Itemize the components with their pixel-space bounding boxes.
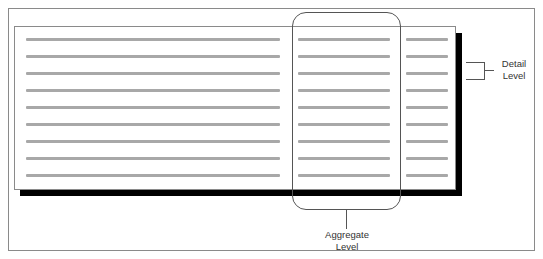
detail-connector bbox=[484, 70, 494, 71]
wide-column-line bbox=[26, 106, 280, 109]
narrow-column-line bbox=[406, 123, 448, 126]
aggregate-connector bbox=[346, 210, 347, 229]
narrow-column-line bbox=[406, 106, 448, 109]
wide-column-line bbox=[26, 55, 280, 58]
narrow-column-line bbox=[406, 157, 448, 160]
wide-column-line bbox=[26, 123, 280, 126]
narrow-column-line bbox=[406, 140, 448, 143]
narrow-column-line bbox=[406, 89, 448, 92]
wide-column-line bbox=[26, 140, 280, 143]
detail-level-label: Detail Level bbox=[494, 58, 534, 82]
wide-column-line bbox=[26, 72, 280, 75]
narrow-column-line bbox=[406, 38, 448, 41]
aggregate-label-line1: Aggregate bbox=[316, 229, 378, 241]
aggregate-level-label: Aggregate Level bbox=[316, 229, 378, 253]
narrow-column-line bbox=[406, 174, 448, 177]
wide-column-line bbox=[26, 174, 280, 177]
wide-column-line bbox=[26, 157, 280, 160]
narrow-column-line bbox=[406, 55, 448, 58]
detail-label-line1: Detail bbox=[494, 58, 534, 70]
wide-column-line bbox=[26, 38, 280, 41]
aggregate-label-line2: Level bbox=[316, 241, 378, 253]
wide-column-line bbox=[26, 89, 280, 92]
aggregate-highlight bbox=[292, 12, 401, 210]
narrow-column-line bbox=[406, 72, 448, 75]
detail-label-line2: Level bbox=[494, 70, 534, 82]
detail-bracket bbox=[466, 62, 485, 80]
